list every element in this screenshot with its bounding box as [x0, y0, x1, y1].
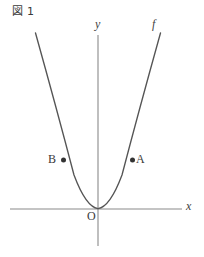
y-axis-label: y: [95, 18, 100, 30]
point-a-marker: [130, 158, 135, 163]
parabola-plot: [0, 0, 204, 257]
curve-label-f: f: [152, 18, 155, 30]
figure-container: 図 1 y x f O A B: [0, 0, 204, 257]
point-a-label: A: [136, 153, 145, 165]
point-b-marker: [61, 158, 66, 163]
point-b-label: B: [48, 153, 56, 165]
x-axis-label: x: [186, 200, 191, 212]
origin-label: O: [87, 210, 96, 222]
